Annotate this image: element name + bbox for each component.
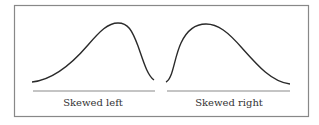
skew-diagram: Skewed left Skewed right [0, 0, 319, 125]
skewed-right-label: Skewed right [195, 97, 263, 108]
skewed-right-curve [166, 24, 290, 84]
skewed-left-curve [32, 23, 154, 82]
panel-skewed-right: Skewed right [166, 24, 290, 108]
figure-border [15, 6, 309, 117]
skewed-left-label: Skewed left [63, 97, 123, 108]
panel-skewed-left: Skewed left [32, 23, 155, 108]
